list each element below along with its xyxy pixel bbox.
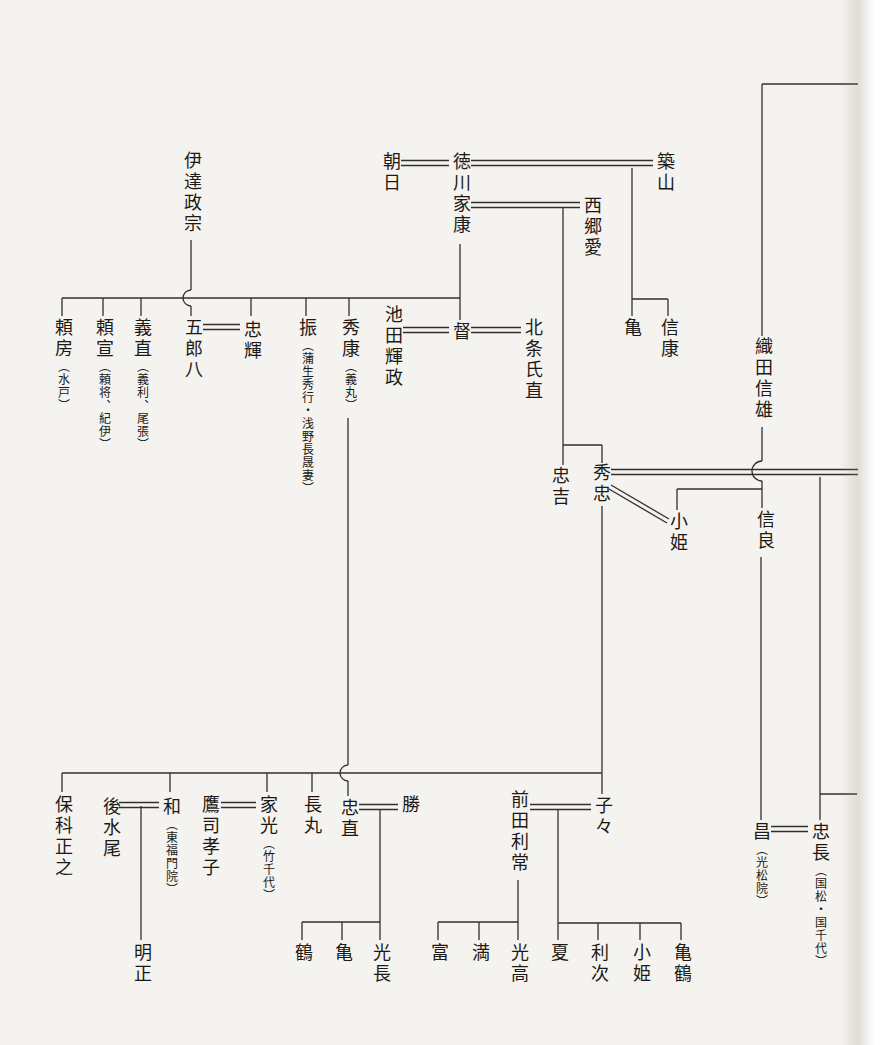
person-name: 秀忠 [590, 463, 611, 505]
person-tadayoshi: 忠吉 [548, 466, 570, 508]
person-name: 光長 [370, 943, 391, 985]
person-maeda-toshitsune: 前田利常 [507, 790, 529, 874]
bracket-kohime-oda [677, 489, 762, 510]
person-yorinobu: 頼宣（頼将、紀伊） [92, 318, 114, 451]
person-name: 徳川家康 [450, 152, 471, 236]
person-iemitsu: 家光（竹千代） [256, 795, 278, 902]
person-yoshinao: 義直（義利、尾張） [130, 318, 152, 451]
bracket-kame-nobuyasu [632, 299, 668, 316]
person-ikeda-terumasa: 池田輝政 [381, 305, 403, 389]
person-name: 長丸 [301, 795, 322, 837]
person-tsukiyama: 築山 [653, 152, 675, 194]
person-kametsuru: 亀鶴 [670, 943, 692, 985]
person-name: 築山 [654, 152, 675, 194]
person-note: （義丸） [342, 360, 356, 412]
person-name: 義直 [131, 318, 152, 360]
person-name: 子々 [592, 796, 613, 838]
person-name: 忠長 [809, 822, 830, 864]
person-mitsutaka: 光高 [507, 943, 529, 985]
person-kame-2: 亀 [331, 943, 353, 964]
person-name: 伊達政宗 [181, 151, 202, 235]
marriage-ieyasu-saigo-ai [471, 203, 580, 208]
marriage-masa-tadanaga [771, 827, 808, 832]
person-name: 満 [469, 943, 490, 964]
person-hoshina-masayuki: 保科正之 [51, 795, 73, 879]
bracket-tadayoshi-hidetada [563, 445, 602, 463]
person-name: 明正 [131, 943, 152, 985]
person-name: 秀康 [339, 318, 360, 360]
person-nobuyoshi: 信良 [753, 510, 775, 552]
person-kazu: 和（東福門院） [159, 797, 181, 896]
person-name: 利次 [588, 943, 609, 985]
person-masa: 昌（光松院） [749, 822, 771, 908]
person-toshitsugu: 利次 [587, 943, 609, 985]
person-tadanaga: 忠長（国松・国千代） [808, 822, 830, 968]
person-chiyo: 子々 [591, 796, 613, 838]
person-name: 亀鶴 [671, 943, 692, 985]
person-note: （頼将、紀伊） [96, 360, 110, 451]
person-meisho: 明正 [130, 943, 152, 985]
person-hojo-ujinao: 北条氏直 [521, 318, 543, 402]
person-note: （光松院） [753, 843, 767, 908]
person-name: 和 [160, 797, 181, 818]
person-name: 北条氏直 [522, 318, 543, 402]
person-hidetada: 秀忠 [589, 463, 611, 505]
person-oda-nobukatsu: 織田信雄 [751, 337, 773, 421]
person-note: （竹千代） [260, 837, 274, 902]
person-name: 頼宣 [93, 318, 114, 360]
person-tsuru: 鶴 [291, 943, 313, 964]
person-name: 夏 [548, 943, 569, 964]
person-note: （東福門院） [163, 818, 177, 896]
person-name: 昌 [750, 822, 771, 843]
person-note: （蒲生秀行・浅野長晟妻） [299, 339, 313, 495]
marriage-terumasa-toku [403, 328, 449, 333]
person-name: 鷹司孝子 [199, 795, 220, 879]
person-tadateru: 忠輝 [240, 320, 262, 362]
person-name: 織田信雄 [752, 337, 773, 421]
person-note: （水戸） [55, 360, 69, 412]
person-name: 亀 [621, 318, 642, 339]
marriage-hidetada-right-page [611, 470, 858, 475]
person-kohime-maeda: 小姫 [629, 943, 651, 985]
marriage-tadanao-katsu [359, 805, 398, 810]
sibling-line-chiyo-children [558, 923, 681, 940]
person-takatsukasa-takako: 鷹司孝子 [198, 795, 220, 879]
person-mitsu: 満 [468, 943, 490, 964]
person-name: 勝 [399, 795, 420, 816]
person-nobuyasu: 信康 [657, 318, 679, 360]
person-gomizunoo: 後水尾 [99, 797, 121, 860]
person-tomi: 富 [427, 943, 449, 964]
person-hideyasu: 秀康（義丸） [338, 318, 360, 412]
marriage-asahi-ieyasu [401, 161, 449, 166]
person-furi: 振（蒲生秀行・浅野長晟妻） [295, 318, 317, 495]
person-name: 保科正之 [52, 795, 73, 879]
person-name: 振 [296, 318, 317, 339]
person-date-masamune: 伊達政宗 [180, 151, 202, 235]
person-name: 小姫 [667, 512, 688, 554]
marriage-toshitsune-chiyo [530, 805, 591, 810]
person-name: 光高 [508, 943, 529, 985]
person-name: 西郷愛 [581, 196, 602, 259]
person-mitsunaga: 光長 [369, 943, 391, 985]
person-asahi: 朝日 [379, 152, 401, 194]
person-name: 督 [450, 322, 471, 343]
person-saigo-ai: 西郷愛 [580, 196, 602, 259]
person-note: （国松・国千代） [812, 864, 826, 968]
person-katsu: 勝 [398, 795, 420, 816]
marriage-lines [119, 161, 858, 832]
person-name: 後水尾 [100, 797, 121, 860]
person-nagamaru: 長丸 [300, 795, 322, 837]
marriage-gomizunoo-kazu [119, 803, 159, 808]
person-name: 忠直 [338, 798, 359, 840]
sibling-line-tadanao-children [302, 922, 380, 940]
hop-arc-nobukatsu-line [752, 461, 762, 481]
person-name: 池田輝政 [382, 305, 403, 389]
person-name: 亀 [332, 943, 353, 964]
person-iroha: 五郎八 [181, 318, 203, 381]
person-name: 富 [428, 943, 449, 964]
sibling-line-toshitsune-children [438, 922, 518, 940]
marriage-hidetada-kohime-diagonal [609, 485, 669, 523]
child-stubs-ieyasu-children [62, 298, 349, 316]
marriage-toku-ujinao [471, 328, 521, 333]
person-toku: 督 [449, 322, 471, 343]
